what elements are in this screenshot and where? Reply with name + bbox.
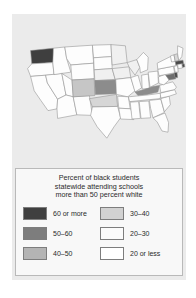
state-mn bbox=[111, 45, 127, 65]
legend-item-20-30: 20–30 bbox=[100, 224, 175, 244]
legend-swatch-60-or-more bbox=[23, 207, 47, 220]
legend-items: 60 or more 30–40 50–60 20–30 40–50 20 or… bbox=[16, 204, 182, 264]
legend-label-30-40: 30–40 bbox=[130, 210, 149, 217]
state-ks bbox=[95, 80, 117, 94]
legend-item-20-or-less: 20 or less bbox=[100, 244, 175, 264]
legend-swatch-30-40 bbox=[100, 207, 124, 220]
state-ct bbox=[178, 64, 183, 69]
map-states bbox=[28, 45, 185, 139]
legend-swatch-20-or-less bbox=[100, 247, 124, 260]
legend-label-20-30: 20–30 bbox=[130, 230, 149, 237]
state-or bbox=[28, 63, 54, 77]
state-nd bbox=[92, 45, 111, 58]
legend-label-50-60: 50–60 bbox=[53, 230, 72, 237]
legend-title: Percent of black students statewide atte… bbox=[16, 169, 182, 200]
legend-swatch-50-60 bbox=[23, 227, 47, 240]
legend-label-60-or-more: 60 or more bbox=[53, 210, 87, 217]
legend-swatch-20-30 bbox=[100, 227, 124, 240]
legend-item-50-60: 50–60 bbox=[23, 224, 98, 244]
state-ms bbox=[130, 102, 140, 119]
legend-swatch-40-50 bbox=[23, 247, 47, 260]
state-tx bbox=[91, 106, 121, 138]
state-oh bbox=[148, 71, 158, 87]
state-wy bbox=[71, 63, 94, 80]
state-sd bbox=[94, 57, 113, 70]
state-ne bbox=[94, 69, 115, 81]
state-al bbox=[139, 101, 150, 118]
legend-label-40-50: 40–50 bbox=[53, 250, 72, 257]
map-legend: Percent of black students statewide atte… bbox=[15, 168, 183, 276]
legend-label-20-or-less: 20 or less bbox=[130, 250, 160, 257]
legend-title-line-3: more than 50 percent white bbox=[20, 191, 178, 200]
map-svg bbox=[12, 14, 186, 164]
state-co bbox=[72, 79, 95, 97]
state-ar bbox=[118, 96, 131, 109]
state-in bbox=[142, 74, 150, 89]
legend-item-60-or-more: 60 or more bbox=[23, 204, 98, 224]
us-choropleth-map bbox=[12, 14, 186, 164]
state-nj bbox=[174, 66, 178, 73]
state-mt bbox=[65, 45, 94, 65]
state-ia bbox=[112, 67, 131, 80]
state-ok bbox=[89, 94, 117, 107]
legend-item-40-50: 40–50 bbox=[23, 244, 98, 264]
figure-panel: Percent of black students statewide atte… bbox=[12, 14, 186, 280]
state-wa bbox=[31, 48, 55, 64]
state-me bbox=[178, 46, 183, 61]
legend-item-30-40: 30–40 bbox=[100, 204, 175, 224]
